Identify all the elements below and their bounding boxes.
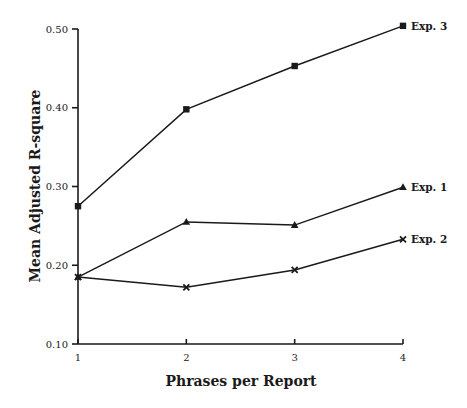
y-tick-label: 0.10 xyxy=(46,339,68,350)
series-end-label: Exp. 3 xyxy=(411,20,447,32)
x-tick-label: 1 xyxy=(75,352,81,363)
x-tick-label: 2 xyxy=(183,352,189,363)
series-layer: Exp. 3Exp. 1Exp. 2 xyxy=(74,20,447,290)
series-exp-3: Exp. 3 xyxy=(75,20,447,210)
triangle-marker-icon xyxy=(399,183,407,190)
series-exp-1: Exp. 1 xyxy=(74,181,447,280)
line-chart: 0.100.200.300.400.50 1234 Exp. 3Exp. 1Ex… xyxy=(0,0,467,408)
y-axis-title: Mean Adjusted R-square xyxy=(27,89,43,282)
square-marker-icon xyxy=(291,63,297,69)
y-axis: 0.100.200.300.400.50 xyxy=(46,24,78,350)
square-marker-icon xyxy=(75,203,81,209)
square-marker-icon xyxy=(183,106,189,112)
series-line xyxy=(78,187,403,277)
y-tick-label: 0.50 xyxy=(46,24,68,35)
y-tick-label: 0.30 xyxy=(46,181,68,192)
series-exp-2: Exp. 2 xyxy=(75,233,447,290)
x-tick-label: 4 xyxy=(400,352,406,363)
x-tick-label: 3 xyxy=(291,352,297,363)
series-end-label: Exp. 1 xyxy=(411,181,447,193)
series-line xyxy=(78,239,403,287)
x-axis: 1234 xyxy=(75,339,406,363)
series-line xyxy=(78,26,403,206)
square-marker-icon xyxy=(400,23,406,29)
y-tick-label: 0.20 xyxy=(46,260,68,271)
series-end-label: Exp. 2 xyxy=(411,233,447,245)
x-axis-title: Phrases per Report xyxy=(165,373,317,389)
y-tick-label: 0.40 xyxy=(46,102,68,113)
